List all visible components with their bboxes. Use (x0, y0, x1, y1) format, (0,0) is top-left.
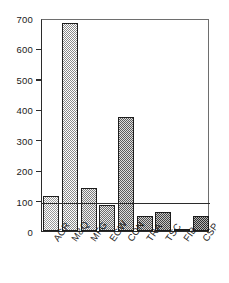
plot-area (41, 19, 209, 232)
bar-chart: 0100200300400500600700 AGRM&QMFGEGWCONTR… (0, 0, 229, 283)
y-axis-tick-label: 0 (28, 227, 33, 238)
bar (118, 117, 134, 231)
y-axis-tick-label: 300 (17, 135, 33, 146)
bar (193, 216, 209, 231)
y-axis-tick-label: 200 (17, 166, 33, 177)
y-axis-tick-label: 700 (17, 14, 33, 25)
bar (81, 188, 97, 231)
y-axis-tick-label: 600 (17, 44, 33, 55)
bar-series (42, 20, 208, 231)
y-axis-tick-label: 500 (17, 74, 33, 85)
bar (62, 23, 78, 231)
reference-line (41, 203, 210, 204)
bar (99, 205, 115, 231)
y-axis-tick-label: 100 (17, 196, 33, 207)
bar (155, 212, 171, 231)
y-axis: 0100200300400500600700 (0, 0, 41, 232)
y-axis-tick-label: 400 (17, 105, 33, 116)
bar (137, 216, 153, 231)
bar (174, 229, 190, 231)
bar (43, 196, 59, 231)
